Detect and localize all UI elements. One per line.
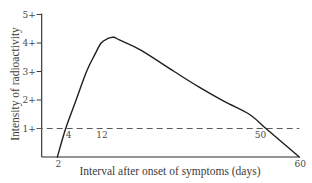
y-tick-label: 5+ <box>22 10 35 20</box>
y-tick-label: 3+ <box>22 67 35 77</box>
y-tick-label: 4+ <box>22 38 35 48</box>
annotations: 41250 <box>66 130 267 140</box>
y-tick-label: 2+ <box>22 95 35 105</box>
annotation-day-4: 4 <box>66 130 72 140</box>
annotation-day-50: 50 <box>255 130 267 140</box>
x-axis-title: Interval after onset of symptoms (days) <box>79 165 260 178</box>
y-axis-title: Intensity of radioactivity <box>9 27 22 141</box>
x-tick-label: 60 <box>295 159 307 169</box>
y-ticks: 1+2+3+4+5+ <box>22 10 41 134</box>
x-tick-label: 2 <box>55 159 61 169</box>
y-tick-label: 1+ <box>22 124 35 134</box>
radioactivity-chart: 1+2+3+4+5+ 260 41250 Interval after onse… <box>0 0 312 183</box>
annotation-day-12: 12 <box>96 130 107 140</box>
